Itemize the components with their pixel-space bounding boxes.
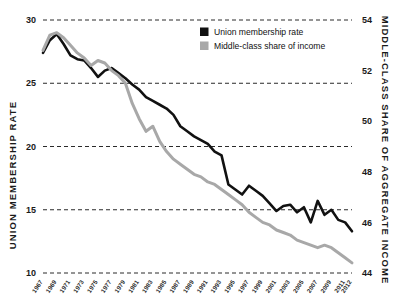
right-tick-label: 50	[362, 116, 372, 126]
right-tick-label: 54	[362, 15, 372, 25]
chart-background	[0, 0, 396, 305]
left-tick-label: 20	[26, 142, 36, 152]
left-axis-title: UNION MEMBERSHIP RATE	[7, 101, 18, 249]
right-tick-label: 48	[362, 167, 372, 177]
right-tick-label: 46	[362, 218, 372, 228]
left-tick-label: 30	[26, 15, 36, 25]
left-tick-label: 25	[26, 78, 36, 88]
right-tick-label: 44	[362, 268, 372, 278]
chart-container: 1015202530 444648505254 1967196919711973…	[0, 0, 396, 305]
right-axis-title: MIDDLE-CLASS SHARE OF AGGREGATE INCOME	[380, 16, 391, 285]
legend-label: Union membership rate	[214, 27, 304, 37]
legend-swatch	[200, 42, 209, 51]
right-tick-label: 52	[362, 66, 372, 76]
dual-axis-line-chart: 1015202530 444648505254 1967196919711973…	[0, 0, 396, 305]
left-tick-label: 10	[26, 268, 36, 278]
left-tick-label: 15	[26, 205, 36, 215]
legend-label: Middle-class share of income	[214, 41, 326, 51]
legend-swatch	[200, 28, 209, 37]
